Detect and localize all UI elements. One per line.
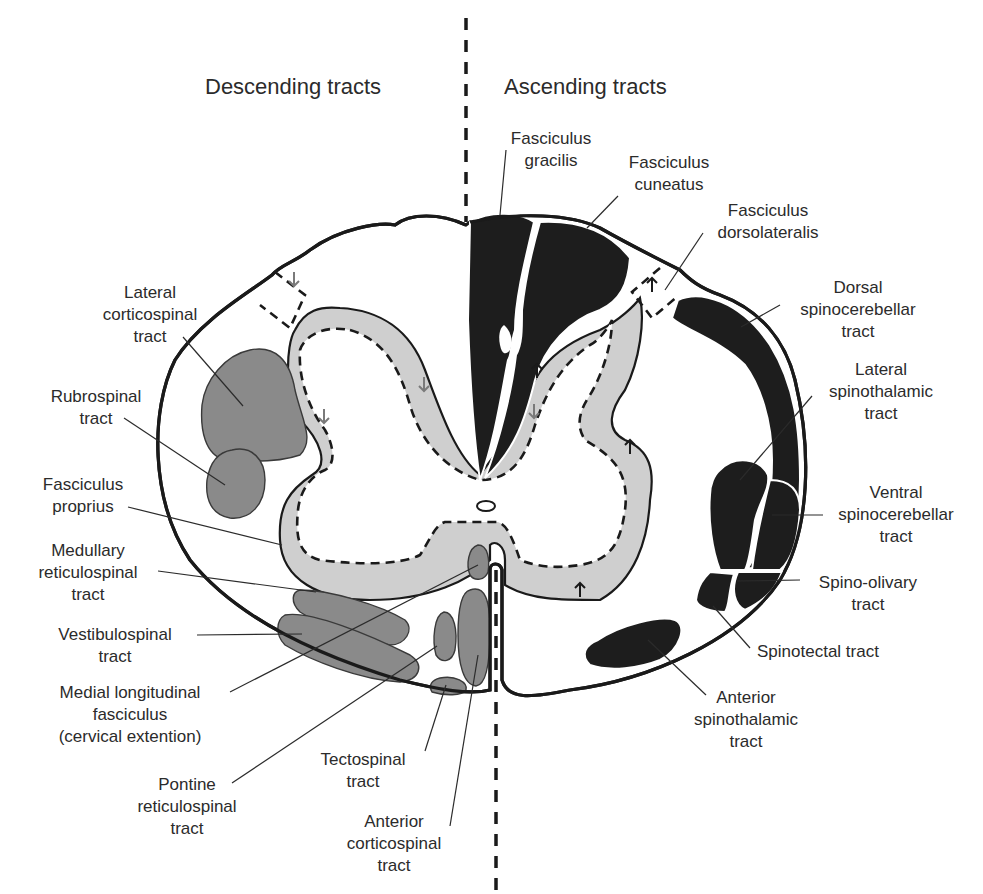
label-fasciculus-gracilis: Fasciculus gracilis xyxy=(511,129,591,170)
svg-text:spinothalamic: spinothalamic xyxy=(829,382,933,401)
anterior-corticospinal-tract xyxy=(458,589,490,686)
pontine-reticulospinal-tract xyxy=(434,612,456,661)
svg-text:Fasciculus: Fasciculus xyxy=(43,475,123,494)
svg-text:tract: tract xyxy=(346,772,379,791)
svg-text:gracilis: gracilis xyxy=(525,151,578,170)
label-tectospinal: Tectospinal tract xyxy=(320,750,405,791)
svg-text:corticospinal: corticospinal xyxy=(103,305,198,324)
svg-text:reticulospinal: reticulospinal xyxy=(38,563,137,582)
svg-text:Spino-olivary: Spino-olivary xyxy=(819,573,918,592)
svg-text:Fasciculus: Fasciculus xyxy=(728,201,808,220)
header-ascending: Ascending tracts xyxy=(504,74,667,99)
svg-text:spinocerebellar: spinocerebellar xyxy=(838,505,954,524)
svg-text:spinothalamic: spinothalamic xyxy=(694,710,798,729)
svg-text:tract: tract xyxy=(133,327,166,346)
svg-text:Tectospinal: Tectospinal xyxy=(320,750,405,769)
svg-text:tract: tract xyxy=(851,595,884,614)
label-anterior-corticospinal: Anterior corticospinal tract xyxy=(347,812,442,875)
svg-text:spinocerebellar: spinocerebellar xyxy=(800,300,916,319)
svg-text:Anterior: Anterior xyxy=(716,688,776,707)
svg-text:Lateral: Lateral xyxy=(855,360,907,379)
label-medial-longitudinal-fasciculus: Medial longitudinal fasciculus (cervical… xyxy=(59,683,202,746)
label-vestibulospinal: Vestibulospinal tract xyxy=(58,625,171,666)
spinal-cord-tracts-diagram: Descending tracts Ascending tracts xyxy=(0,0,983,894)
svg-text:dorsolateralis: dorsolateralis xyxy=(717,223,818,242)
svg-text:Anterior: Anterior xyxy=(364,812,424,831)
rubrospinal-tract xyxy=(207,449,265,518)
svg-text:Spinotectal tract: Spinotectal tract xyxy=(757,642,879,661)
svg-text:proprius: proprius xyxy=(52,497,113,516)
svg-text:tract: tract xyxy=(879,527,912,546)
svg-text:cuneatus: cuneatus xyxy=(635,175,704,194)
svg-text:tract: tract xyxy=(170,819,203,838)
svg-text:tract: tract xyxy=(377,856,410,875)
svg-text:Medullary: Medullary xyxy=(51,541,125,560)
svg-text:Vestibulospinal: Vestibulospinal xyxy=(58,625,171,644)
svg-text:Fasciculus: Fasciculus xyxy=(629,153,709,172)
label-fasciculus-proprius: Fasciculus proprius xyxy=(43,475,123,516)
svg-text:tract: tract xyxy=(71,585,104,604)
svg-text:tract: tract xyxy=(841,322,874,341)
svg-text:fasciculus: fasciculus xyxy=(93,705,168,724)
svg-text:Medial longitudinal: Medial longitudinal xyxy=(60,683,201,702)
svg-text:Rubrospinal: Rubrospinal xyxy=(51,387,142,406)
svg-text:tract: tract xyxy=(79,409,112,428)
label-spinotectal: Spinotectal tract xyxy=(757,642,879,661)
label-lateral-spinothalamic: Lateral spinothalamic tract xyxy=(829,360,933,423)
svg-text:tract: tract xyxy=(864,404,897,423)
label-dorsal-spinocerebellar: Dorsal spinocerebellar tract xyxy=(800,278,916,341)
svg-text:Lateral: Lateral xyxy=(124,283,176,302)
label-fasciculus-dorsolateralis: Fasciculus dorsolateralis xyxy=(717,201,818,242)
label-lateral-corticospinal: Lateral corticospinal tract xyxy=(103,283,198,346)
svg-text:tract: tract xyxy=(729,732,762,751)
label-pontine-reticulospinal: Pontine reticulospinal tract xyxy=(137,775,236,838)
central-canal xyxy=(477,501,495,511)
svg-text:Ventral: Ventral xyxy=(870,483,923,502)
svg-text:corticospinal: corticospinal xyxy=(347,834,442,853)
label-rubrospinal: Rubrospinal tract xyxy=(51,387,142,428)
svg-text:tract: tract xyxy=(98,647,131,666)
label-spino-olivary: Spino-olivary tract xyxy=(819,573,918,614)
label-medullary-reticulospinal: Medullary reticulospinal tract xyxy=(38,541,137,604)
label-fasciculus-cuneatus: Fasciculus cuneatus xyxy=(629,153,709,194)
svg-text:Dorsal: Dorsal xyxy=(833,278,882,297)
svg-text:Fasciculus: Fasciculus xyxy=(511,129,591,148)
label-ventral-spinocerebellar: Ventral spinocerebellar tract xyxy=(838,483,954,546)
svg-text:(cervical extention): (cervical extention) xyxy=(59,727,202,746)
svg-text:reticulospinal: reticulospinal xyxy=(137,797,236,816)
label-anterior-spinothalamic: Anterior spinothalamic tract xyxy=(694,688,798,751)
medial-longitudinal-fasciculus-tract xyxy=(468,545,489,579)
header-descending: Descending tracts xyxy=(205,74,381,99)
svg-text:Pontine: Pontine xyxy=(158,775,216,794)
